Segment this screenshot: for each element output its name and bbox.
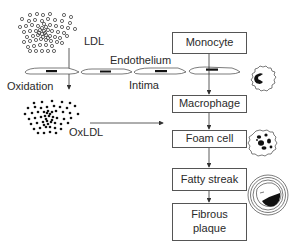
box-monocyte-label: Monocyte bbox=[186, 36, 234, 50]
box-foam-cell-label: Foam cell bbox=[186, 132, 234, 146]
foam-cell-icon bbox=[248, 130, 277, 156]
box-monocyte: Monocyte bbox=[172, 32, 247, 54]
label-endothelium: Endothelium bbox=[110, 55, 171, 66]
box-fibrous-plaque: Fibrous plaque bbox=[172, 203, 247, 241]
label-oxldl: OxLDL bbox=[69, 127, 103, 138]
box-macrophage-label: Macrophage bbox=[179, 97, 240, 111]
box-fibrous-plaque-line1: Fibrous bbox=[191, 208, 228, 222]
box-fatty-streak: Fatty streak bbox=[172, 168, 247, 191]
label-ldl: LDL bbox=[84, 36, 104, 47]
endothelial-cell-layer-icon bbox=[25, 67, 240, 74]
ldl-particle-cluster-icon bbox=[18, 12, 76, 52]
monocyte-cell-icon bbox=[251, 66, 276, 91]
label-intima: Intima bbox=[129, 80, 159, 91]
box-macrophage: Macrophage bbox=[172, 95, 247, 113]
box-fibrous-plaque-line2: plaque bbox=[193, 222, 226, 236]
diagram-canvas bbox=[0, 0, 297, 246]
label-oxidation: Oxidation bbox=[7, 81, 53, 92]
artery-cross-section-icon bbox=[248, 175, 288, 215]
box-foam-cell: Foam cell bbox=[172, 130, 247, 148]
box-fatty-streak-label: Fatty streak bbox=[181, 173, 238, 187]
